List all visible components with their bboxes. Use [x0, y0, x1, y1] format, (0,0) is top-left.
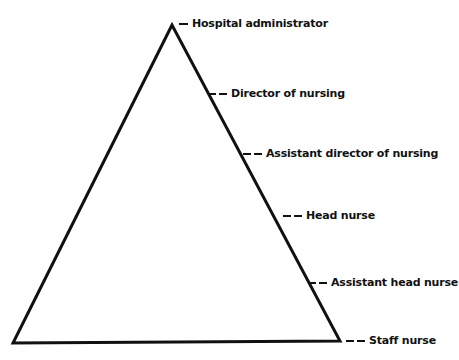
dash-icon	[294, 215, 302, 217]
dash-icon	[254, 153, 262, 155]
pyramid-triangle	[13, 25, 340, 343]
level-label-head-nurse: Head nurse	[283, 209, 375, 222]
level-label-staff-nurse: Staff nurse	[346, 334, 436, 347]
dash-icon	[346, 340, 354, 342]
level-label-hospital-administrator: Hospital administrator	[179, 17, 328, 30]
dash-icon	[357, 340, 365, 342]
dash-icon	[319, 282, 327, 284]
dash-icon	[308, 282, 316, 284]
level-label-assistant-director-of-nursing: Assistant director of nursing	[243, 147, 438, 160]
pyramid-diagram	[0, 0, 459, 360]
level-label-director-of-nursing: Director of nursing	[210, 87, 345, 100]
dash-icon	[219, 93, 227, 95]
dash-icon	[283, 215, 291, 217]
dash-icon	[243, 153, 251, 155]
dash-icon	[210, 93, 216, 95]
dash-icon	[179, 23, 188, 25]
level-label-assistant-head-nurse: Assistant head nurse	[308, 276, 458, 289]
